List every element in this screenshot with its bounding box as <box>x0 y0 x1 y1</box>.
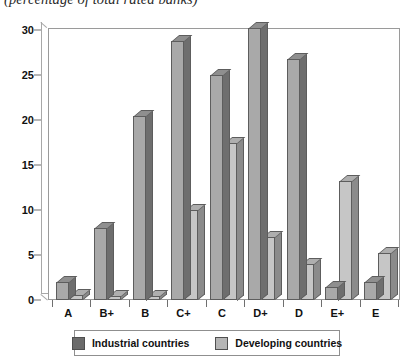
bar-D-industrial <box>287 59 300 300</box>
bar-Cplus-industrial <box>171 41 184 300</box>
bar-front-face <box>56 282 69 300</box>
bar-side-face <box>391 247 398 300</box>
bar-side-face <box>223 69 230 300</box>
bars-layer <box>0 0 414 361</box>
bar-side-face <box>300 53 307 300</box>
bar-front-face <box>364 282 377 300</box>
bar-front-face <box>325 287 338 301</box>
bar-front-face <box>94 228 107 300</box>
bar-side-face <box>352 175 359 300</box>
bar-front-face <box>210 75 223 300</box>
bar-front-face <box>287 59 300 300</box>
bar-Dplus-industrial <box>248 28 261 300</box>
bar-front-face <box>133 116 146 301</box>
legend-label-developing: Developing countries <box>235 337 342 349</box>
legend-item-industrial: Industrial countries <box>72 337 189 350</box>
bar-A-industrial <box>56 282 69 300</box>
bar-side-face <box>261 22 268 300</box>
bar-Bplus-industrial <box>94 228 107 300</box>
bar-front-face <box>248 28 261 300</box>
bar-side-face <box>198 204 205 300</box>
bar-front-face <box>171 41 184 300</box>
legend-swatch-developing <box>215 337 228 350</box>
legend-swatch-industrial <box>72 337 85 350</box>
chart-legend: Industrial countries Developing countrie… <box>74 330 340 356</box>
bar-side-face <box>107 222 114 300</box>
bar-chart: (percentage of total rated banks) 051015… <box>0 0 414 361</box>
legend-label-industrial: Industrial countries <box>92 337 189 349</box>
bar-C-industrial <box>210 75 223 300</box>
bar-B-industrial <box>133 116 146 301</box>
bar-side-face <box>184 35 191 300</box>
bar-side-face <box>237 137 244 300</box>
legend-item-developing: Developing countries <box>215 337 342 350</box>
bar-E-industrial <box>364 282 377 300</box>
bar-side-face <box>146 110 153 300</box>
bar-Eplus-industrial <box>325 287 338 301</box>
bar-side-face <box>275 231 282 300</box>
